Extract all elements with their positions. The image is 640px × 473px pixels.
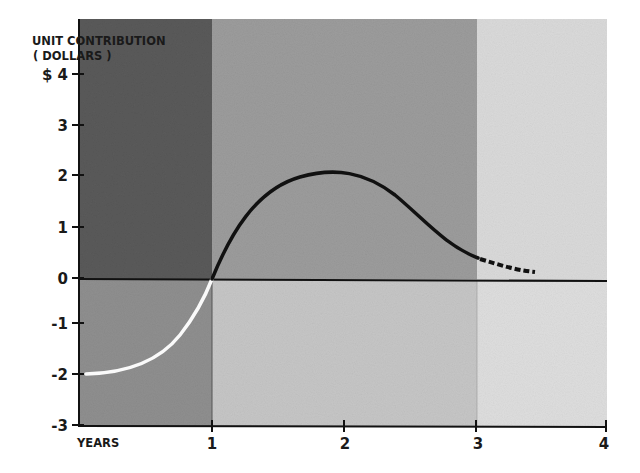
region-year3-4-negative — [477, 281, 607, 426]
svg-text:1: 1 — [207, 435, 217, 453]
svg-text:0: 0 — [58, 270, 68, 288]
x-axis-title: YEARS — [76, 436, 119, 450]
svg-text:3: 3 — [473, 435, 483, 453]
svg-text:$ 4: $ 4 — [42, 66, 68, 84]
svg-text:2: 2 — [58, 167, 68, 185]
x-tick-labels: 1 2 3 4 — [207, 435, 609, 453]
y-tick-labels: $ 4 3 2 1 0 -1 -2 -3 — [42, 66, 68, 435]
chart: UNIT CONTRIBUTION ( DOLLARS ) $ 4 3 2 1 … — [0, 0, 640, 473]
y-axis-title-line2: ( DOLLARS ) — [33, 49, 112, 63]
svg-text:1: 1 — [58, 219, 68, 237]
y-axis-title-line1: UNIT CONTRIBUTION — [32, 34, 166, 48]
svg-text:4: 4 — [599, 435, 609, 453]
svg-text:3: 3 — [58, 117, 68, 135]
region-year3-4-positive — [477, 19, 607, 281]
shaded-regions — [79, 19, 607, 426]
svg-text:-1: -1 — [51, 315, 68, 333]
region-year1-3-positive — [212, 19, 477, 279]
region-year1-3-negative — [212, 279, 477, 426]
svg-text:2: 2 — [340, 435, 350, 453]
region-year0-1-negative — [79, 279, 212, 426]
svg-text:-3: -3 — [51, 417, 68, 435]
svg-text:-2: -2 — [51, 366, 68, 384]
